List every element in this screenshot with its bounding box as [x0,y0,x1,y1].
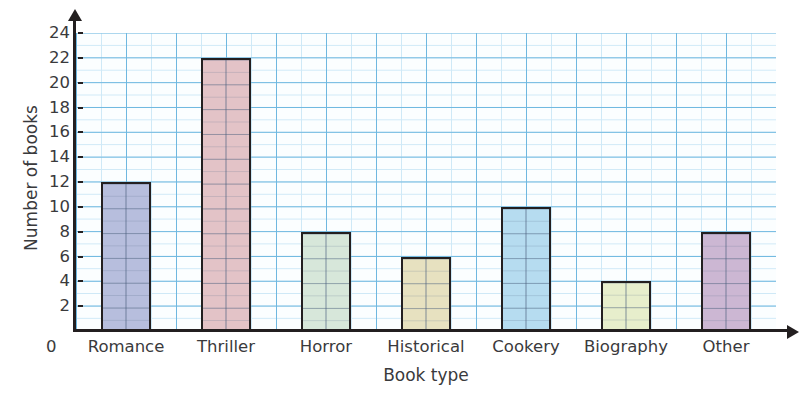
bar-grid-major [603,283,649,329]
bar-horror [301,232,351,331]
bar-biography [601,281,651,331]
bar-grid-minor [103,184,149,329]
y-tick-label-2: 2 [12,298,70,315]
bar-grid-minor [203,60,249,329]
y-tick-mark-2 [78,305,83,307]
x-axis-tick-labels: RomanceThrillerHorrorHistoricalCookeryBi… [76,337,776,363]
y-tick-mark-18 [78,107,83,109]
bar-grid-minor [403,259,449,330]
y-axis-origin-label: 0 [46,337,57,356]
bar-grid-major [303,234,349,329]
bar-historical [401,257,451,332]
x-axis-arrow-icon [787,325,799,339]
bar-chart: 24681012141618202224 RomanceThrillerHorr… [0,0,812,397]
x-axis-line [73,329,789,332]
y-tick-mark-4 [78,280,83,282]
plot-area [76,33,776,331]
y-tick-mark-22 [78,57,83,59]
x-tick-label-other: Other [676,337,776,357]
bar-grid-major [203,60,249,329]
y-tick-mark-8 [78,231,83,233]
bar-grid-major [403,259,449,330]
y-tick-mark-10 [78,206,83,208]
bar-romance [101,182,151,331]
x-tick-label-historical: Historical [376,337,476,357]
bar-grid-minor [303,234,349,329]
y-tick-mark-12 [78,181,83,183]
bar-grid-major [503,209,549,329]
x-tick-label-thriller: Thriller [176,337,276,357]
bar-grid-major [103,184,149,329]
y-tick-label-24: 24 [12,25,70,42]
bar-cookery [501,207,551,331]
y-tick-mark-24 [78,32,83,34]
y-tick-mark-6 [78,256,83,258]
bar-other [701,232,751,331]
y-tick-label-22: 22 [12,50,70,67]
x-tick-label-cookery: Cookery [476,337,576,357]
y-tick-mark-14 [78,156,83,158]
y-axis-title: Number of books [21,78,41,278]
bar-grid-minor [603,283,649,329]
bar-grid-minor [503,209,549,329]
bar-thriller [201,58,251,331]
x-tick-label-romance: Romance [76,337,176,357]
y-tick-mark-20 [78,82,83,84]
bar-grid-major [703,234,749,329]
x-tick-label-biography: Biography [576,337,676,357]
bars-layer [76,33,776,331]
x-tick-label-horror: Horror [276,337,376,357]
bar-grid-minor [703,234,749,329]
x-axis-title: Book type [76,365,776,385]
y-axis-line [73,18,76,331]
y-tick-mark-16 [78,131,83,133]
